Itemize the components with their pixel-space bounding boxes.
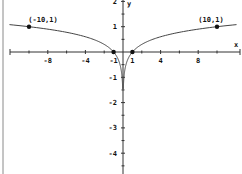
- data-point: [111, 50, 115, 54]
- axes: [10, 0, 240, 174]
- x-tick-label: 4: [158, 57, 162, 65]
- y-axis-label: y: [127, 0, 132, 8]
- curve-left: [9, 25, 122, 89]
- y-tick-label: -3: [109, 124, 117, 132]
- point-label: (10,1): [198, 16, 223, 24]
- x-tick-label: -4: [81, 57, 89, 65]
- data-point: [215, 25, 219, 29]
- x-tick-label: 8: [196, 57, 200, 65]
- data-point: [130, 50, 134, 54]
- y-tick-label: -2: [109, 99, 117, 107]
- x-tick-label: 1: [130, 57, 134, 65]
- point-label: (-10,1): [28, 16, 58, 24]
- y-tick-label: 2: [113, 0, 117, 6]
- y-tick-label: -4: [109, 150, 117, 158]
- labels: -8-4-114821-1-2-3-4xy(-10,1)(10,1): [28, 0, 239, 158]
- x-tick-label: -1: [109, 57, 117, 65]
- y-tick-label: -1: [109, 74, 117, 82]
- log-abs-graph: -8-4-114821-1-2-3-4xy(-10,1)(10,1): [0, 0, 242, 174]
- data-point: [27, 25, 31, 29]
- y-tick-label: 1: [113, 23, 117, 31]
- curve-right: [123, 25, 236, 89]
- x-axis-label: x: [234, 41, 239, 49]
- x-tick-label: -8: [44, 57, 52, 65]
